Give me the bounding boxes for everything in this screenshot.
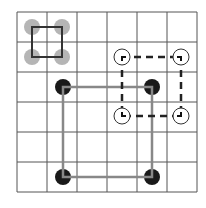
grid-lines <box>17 12 197 192</box>
grid-diagram <box>0 0 206 208</box>
